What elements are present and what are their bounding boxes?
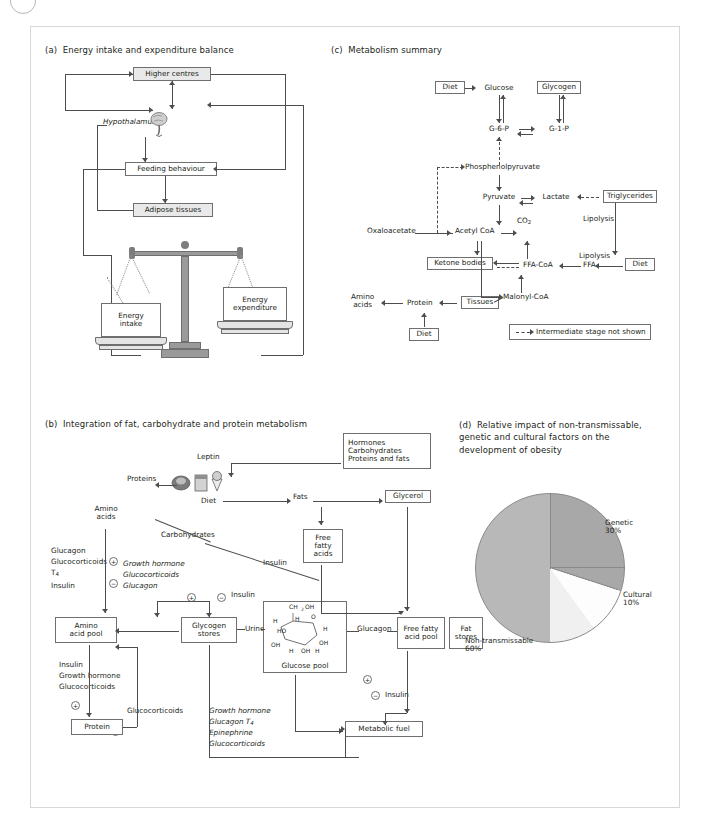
- arrow-amino-pool: [102, 609, 108, 613]
- arrow-pep-pyruvate: [496, 187, 502, 191]
- label-glucocorticoids-3: Glucocorticoids: [59, 683, 115, 691]
- edge-glucose-glucagon: [347, 631, 359, 632]
- meat-icon: [172, 476, 190, 490]
- panel-d-title: (d) Relative impact of non-transmissable…: [459, 419, 659, 456]
- page-corner-circle-icon: [10, 0, 36, 14]
- edge-dash-left-up: [437, 167, 438, 233]
- pie-label-genetic: Genetic 30%: [605, 519, 633, 536]
- sign-plus-1: +: [109, 557, 118, 566]
- arrow-protein-aapool: [115, 644, 119, 650]
- hypothalamus-brain-icon: [150, 111, 172, 141]
- edge-right-to-feeding: [217, 169, 285, 170]
- edge-diet-ffa: [599, 266, 623, 267]
- edge-proteins-line: [159, 485, 177, 486]
- label-glucocorticoids-1: Glucocorticoids: [51, 558, 107, 566]
- label-glucagon-t4: Glucagon T4: [209, 718, 254, 726]
- node-amino-acid-pool: Aminoacid pool: [55, 617, 117, 643]
- arrow-fuel-in: [382, 721, 388, 725]
- node-diet-top: Diet: [435, 81, 465, 94]
- arrow-down-feeding: [142, 158, 148, 162]
- label-epinephrine: Epinephrine: [209, 729, 253, 737]
- node-energy-intake: Energyintake: [101, 303, 161, 337]
- arrow-diet-protein: [421, 313, 427, 317]
- edge-adipose-left: [97, 210, 133, 211]
- arrow-aapool-left: [115, 628, 119, 634]
- svg-text:HO: HO: [277, 627, 287, 634]
- edge-glycerol-down: [407, 507, 408, 611]
- edge-left-to-higher: [65, 74, 133, 75]
- svg-text:H: H: [295, 615, 300, 622]
- arrow-ffa-pool: [398, 611, 404, 615]
- arrow-diet-glucose: [472, 85, 476, 91]
- node-pep: Phosphenolpyruvate: [465, 163, 540, 171]
- edge-oxalo-acetyl: [415, 233, 449, 234]
- edge-urine2: [261, 629, 265, 630]
- label-insulin-4: Insulin: [59, 661, 83, 669]
- node-feeding-behaviour: Feeding behaviour: [125, 162, 217, 176]
- edge-exp-right: [261, 355, 303, 356]
- edge-left-bottom: [83, 255, 111, 256]
- panel-b-title: (b) Integration of fat, carbohydrate and…: [45, 419, 307, 429]
- arrow-g6p-g1p: [531, 126, 535, 132]
- edge-protein-top: [119, 647, 137, 648]
- svg-text:H: H: [323, 625, 328, 632]
- svg-text:H: H: [315, 647, 320, 654]
- arrow-dash-pep: [461, 164, 465, 170]
- label-glucocorticoids-5: Glucocorticoids: [209, 740, 265, 748]
- arrow-diet-ffa: [595, 263, 599, 269]
- sign-plus-4: +: [363, 675, 372, 684]
- node-malonyl-coa: Malonyl-CoA: [503, 293, 548, 301]
- arrow-proteins: [155, 482, 159, 488]
- node-free-fatty-acids: Freefattyacids: [303, 529, 343, 563]
- arrow-oxalo-acetyl: [447, 230, 451, 236]
- top-bar: [0, 0, 708, 18]
- edge-aapool-glycogen: [119, 631, 179, 632]
- arrow-glycerol-down: [404, 607, 410, 611]
- arrow-protein-amino: [381, 300, 385, 306]
- figure-frame: (a) Energy intake and expenditure balanc…: [30, 26, 680, 808]
- panel-d-title-text: Relative impact of non-transmissable, ge…: [459, 420, 642, 455]
- panel-b-letter: (b): [45, 419, 57, 429]
- edge-protein-amino: [385, 303, 403, 304]
- scale-wire-l2: [131, 255, 150, 293]
- legend-dash-line: [516, 332, 530, 333]
- node-free-fatty-acid-pool: Free fattyacid pool: [397, 617, 445, 649]
- label-growth-hormone-1: Growth hormone: [123, 560, 185, 568]
- node-glycerol: Glycerol: [385, 490, 431, 503]
- pan-right-foot: [221, 329, 289, 334]
- edge-ketone-ffacoa: [497, 263, 519, 264]
- arrow-fats-glycerol: [379, 498, 383, 504]
- node-ffa-coa: FFA-CoA: [523, 261, 553, 269]
- svg-text:OH: OH: [319, 639, 328, 646]
- arrow-down-hypothalamus: [169, 105, 175, 109]
- edge-far-right-top: [211, 105, 303, 106]
- node-glucose: Glucose: [477, 84, 521, 92]
- pan-left: [95, 337, 167, 345]
- arrow-ffacoa-malonyl: [518, 275, 524, 279]
- label-insulin-2: Insulin: [231, 591, 255, 599]
- label-fats: Fats: [293, 493, 308, 501]
- figure-page: (a) Energy intake and expenditure balanc…: [0, 0, 708, 829]
- arrow-acetyl-ketone: [474, 251, 480, 255]
- arrow-pyr-acetyl: [496, 221, 502, 225]
- sign-minus-1: −: [109, 579, 118, 588]
- edge-glucose-fuel-h: [295, 731, 343, 732]
- edge-aapool-protein: [89, 645, 90, 717]
- label-glucocorticoids-2: Glucocorticoids: [123, 571, 179, 579]
- arrow-g1p-glycogen: [560, 95, 566, 99]
- label-leptin: Leptin: [197, 453, 220, 461]
- edge-left-down: [65, 74, 66, 110]
- panel-a-letter: (a): [45, 45, 57, 55]
- edge-g1p-glycogen: [563, 95, 564, 123]
- node-triglycerides: Triglycerides: [603, 190, 657, 203]
- label-insulin-5: Insulin: [385, 691, 409, 699]
- edge-feeding-left-down: [83, 169, 84, 255]
- edge-glycogen-fuel: [209, 645, 210, 757]
- node-acetyl-coa: Acetyl CoA: [455, 227, 494, 235]
- panel-d-letter: (d): [459, 420, 471, 430]
- food-icons: [171, 467, 231, 497]
- arrow-trig-ffacoa: [612, 251, 618, 255]
- edge-g6p-glucose: [503, 95, 504, 123]
- panel-a-title: (a) Energy intake and expenditure balanc…: [45, 45, 234, 55]
- sign-minus-4: −: [371, 691, 380, 700]
